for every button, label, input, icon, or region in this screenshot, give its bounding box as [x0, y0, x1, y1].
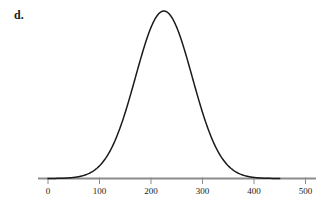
x-axis-tick-label: 200	[144, 186, 158, 196]
normal-distribution-plot: 0100200300400500	[0, 0, 330, 214]
bell-curve-path	[48, 11, 280, 178]
x-axis-tick-label: 100	[93, 186, 107, 196]
x-axis-tick-label: 500	[299, 186, 313, 196]
x-axis-tick-labels: 0100200300400500	[46, 186, 313, 196]
x-axis-tick-label: 300	[196, 186, 210, 196]
x-axis-tick-label: 0	[46, 186, 51, 196]
x-axis-tick-label: 400	[247, 186, 261, 196]
figure-panel: d. 0100200300400500	[0, 0, 330, 214]
